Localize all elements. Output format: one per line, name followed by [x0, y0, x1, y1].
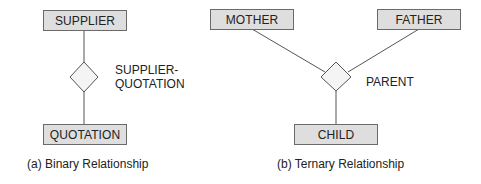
entity-quotation: QUOTATION — [43, 124, 127, 145]
relationship-label-line1: SUPPLIER- — [115, 63, 185, 77]
entity-label: SUPPLIER — [55, 14, 115, 28]
entity-label: FATHER — [395, 13, 442, 27]
relationship-label-supplier-quotation: SUPPLIER- QUOTATION — [115, 63, 185, 91]
entity-father: FATHER — [377, 9, 461, 30]
entity-mother: MOTHER — [210, 9, 294, 30]
relationship-label-parent: PARENT — [366, 75, 414, 89]
caption-ternary: (b) Ternary Relationship — [277, 157, 404, 171]
parent-diamond — [321, 62, 351, 91]
relationship-label-line2: QUOTATION — [115, 77, 185, 91]
entity-label: MOTHER — [226, 13, 279, 27]
mother-connector — [252, 29, 325, 72]
entity-label: QUOTATION — [50, 128, 120, 142]
caption-binary: (a) Binary Relationship — [27, 157, 148, 171]
entity-child: CHILD — [294, 124, 378, 145]
father-connector — [348, 29, 419, 72]
entity-supplier: SUPPLIER — [43, 10, 127, 31]
entity-label: CHILD — [318, 128, 355, 142]
supplier-quotation-diamond — [70, 62, 98, 92]
